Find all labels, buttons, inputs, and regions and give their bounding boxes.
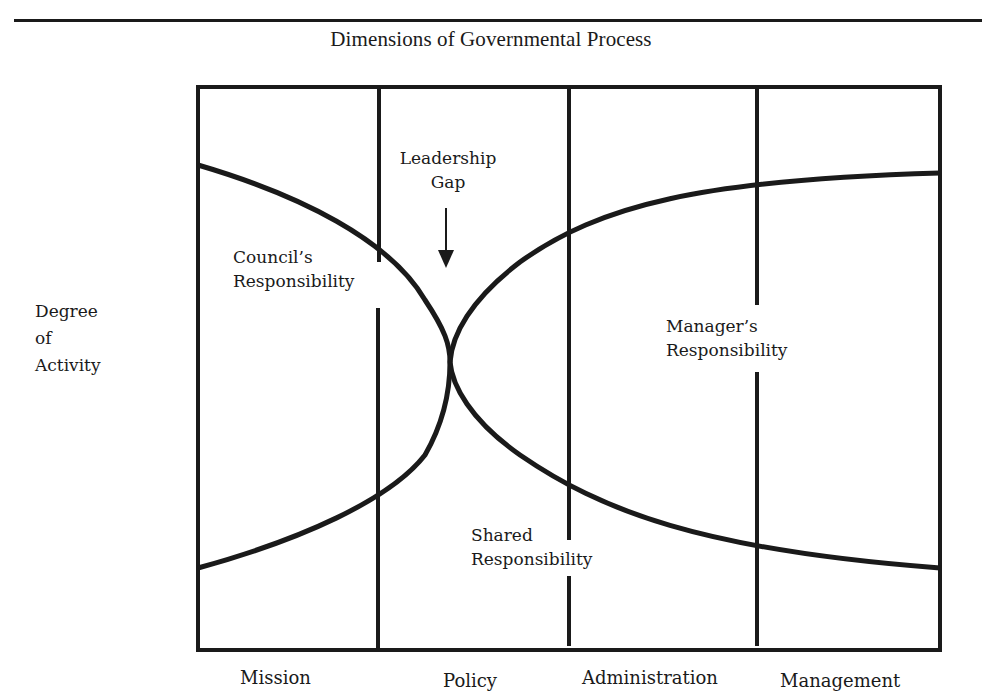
leadership-gap-label: Leadership Gap [386,146,510,194]
x-label-management: Management [780,669,900,693]
manager-responsibility-label: Manager’s Responsibility [666,314,787,362]
y-axis-label: Degree of Activity [35,298,101,379]
x-label-policy: Policy [443,669,497,693]
shared-responsibility-label: Shared Responsibility [471,523,592,571]
x-label-administration: Administration [582,666,718,690]
diagram-canvas [0,0,982,700]
gap-arrow-head [438,250,454,268]
council-responsibility-label: Council’s Responsibility [233,245,354,293]
x-label-mission: Mission [240,666,311,690]
